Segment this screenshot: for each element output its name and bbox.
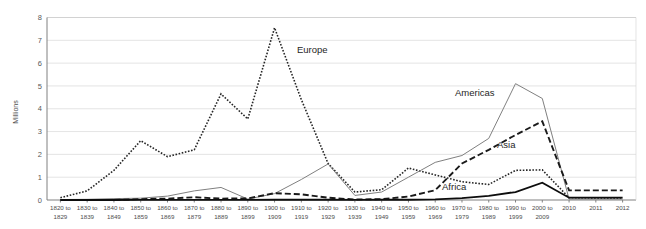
x-tick-label: 1870 to1879 — [184, 204, 205, 220]
x-axis-tick-labels: 1820 to18291830 to18391840 to18491850 to… — [50, 200, 630, 220]
x-tick-label: 1900 to1909 — [264, 204, 285, 220]
y-tick-label: 3 — [38, 127, 42, 136]
data-series — [60, 28, 622, 200]
x-tick-label: 2000 to2009 — [532, 204, 553, 220]
x-tick-label: 1840 to1849 — [104, 204, 125, 220]
series-inline-labels: EuropeAmericasAsiaAfrica — [297, 44, 516, 192]
y-tick-label: 5 — [38, 82, 42, 91]
series-label-europe: Europe — [297, 44, 328, 55]
x-tick-label: 1980 to1989 — [478, 204, 499, 220]
x-tick-label: 1950 to1959 — [398, 204, 419, 220]
y-tick-label: 7 — [38, 36, 42, 45]
series-label-asia: Asia — [497, 139, 516, 150]
x-tick-label: 2012 — [616, 204, 630, 211]
x-tick-label: 1910 to1919 — [291, 204, 312, 220]
y-tick-label: 8 — [38, 13, 42, 22]
y-tick-label: 2 — [38, 150, 42, 159]
gridlines — [47, 18, 636, 178]
x-tick-label: 1940 to1949 — [371, 204, 392, 220]
series-label-africa: Africa — [442, 181, 467, 192]
y-axis-title: Millions — [12, 100, 19, 124]
y-tick-label: 0 — [38, 196, 42, 205]
x-tick-label: 2010 — [562, 204, 576, 211]
x-tick-label: 1930 to1939 — [345, 204, 366, 220]
series-line-americas — [60, 84, 622, 200]
x-tick-label: 1970 to1979 — [452, 204, 473, 220]
x-tick-label: 2011 — [589, 204, 603, 211]
immigration-line-chart: 012345678 1820 to18291830 to18391840 to1… — [0, 0, 646, 229]
chart-canvas: 012345678 1820 to18291830 to18391840 to1… — [0, 0, 646, 229]
x-tick-label: 1830 to1839 — [77, 204, 98, 220]
series-line-europe — [60, 28, 622, 198]
x-tick-label: 1880 to1889 — [211, 204, 232, 220]
y-axis-tick-labels: 012345678 — [38, 13, 42, 205]
x-tick-label: 1850 to1859 — [130, 204, 151, 220]
x-tick-label: 1920 to1929 — [318, 204, 339, 220]
x-tick-label: 1860 to1869 — [157, 204, 178, 220]
y-tick-label: 4 — [38, 104, 42, 113]
y-tick-label: 6 — [38, 59, 42, 68]
y-tick-label: 1 — [38, 173, 42, 182]
series-line-asia — [60, 121, 622, 200]
x-tick-label: 1890 to1899 — [237, 204, 258, 220]
series-label-americas: Americas — [455, 87, 495, 98]
x-tick-label: 1990 to1999 — [505, 204, 526, 220]
x-tick-label: 1960 to1969 — [425, 204, 446, 220]
x-tick-label: 1820 to1829 — [50, 204, 71, 220]
